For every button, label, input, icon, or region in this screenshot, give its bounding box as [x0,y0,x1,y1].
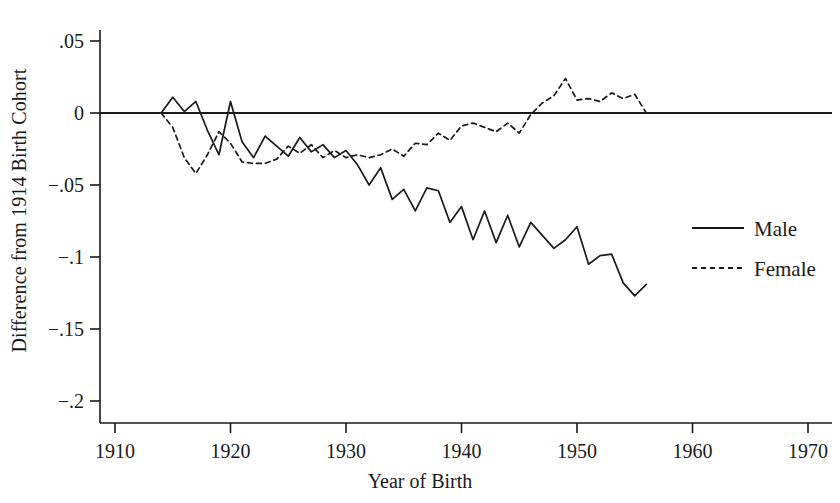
legend-label-female: Female [754,257,816,281]
series-line-female [161,78,646,173]
series-line-male [161,97,646,296]
y-tick-label: .05 [59,30,84,52]
y-tick-label: −.1 [58,246,84,268]
data-series-group [161,78,646,295]
x-tick-label: 1930 [326,440,366,462]
x-axis-label: Year of Birth [0,470,840,493]
y-axis-ticks: .050−.05−.1−.15−.2 [48,30,100,412]
x-tick-label: 1940 [442,440,482,462]
y-tick-label: −.2 [58,390,84,412]
chart-plot-area: .050−.05−.1−.15−.2 191019201930194019501… [0,0,840,503]
x-tick-label: 1960 [673,440,713,462]
x-tick-label: 1950 [557,440,597,462]
y-axis-label-container: Difference from 1914 Birth Cohort [0,0,40,420]
y-axis-label: Difference from 1914 Birth Cohort [9,68,32,352]
x-tick-label: 1920 [211,440,251,462]
y-tick-label: −.05 [48,174,84,196]
x-tick-label: 1910 [95,440,135,462]
chart-legend: MaleFemale [692,217,816,281]
y-tick-label: −.15 [48,318,84,340]
x-axis-ticks: 1910192019301940195019601970 [95,423,828,462]
legend-label-male: Male [754,217,797,241]
x-tick-label: 1970 [788,440,828,462]
y-tick-label: 0 [74,102,84,124]
chart-figure: Difference from 1914 Birth Cohort .050−.… [0,0,840,503]
